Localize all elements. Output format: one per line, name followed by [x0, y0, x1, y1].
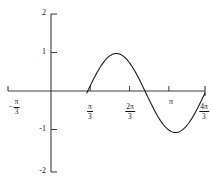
- y-tick-label-negative-2: -2: [31, 167, 46, 175]
- fraction-2pi-over-3: 2π 3: [125, 103, 135, 121]
- y-tick-label-1: 1: [34, 48, 46, 56]
- fraction-pi-over-3: π 3: [87, 103, 93, 121]
- pi-symbol: π: [169, 98, 173, 106]
- x-tick-label-4pi-over-3: 4π 3: [199, 95, 209, 121]
- sine-curve: [87, 54, 205, 133]
- x-axis-line: [8, 86, 205, 96]
- sine-wave-chart-figure: 2 1 -1 -2 − π 3 π 3 2π 3: [0, 0, 211, 185]
- y-tick-label-2: 2: [34, 9, 46, 17]
- y-tick-label-negative-1: -1: [31, 125, 46, 133]
- fraction-4pi-over-3: 4π 3: [199, 103, 209, 121]
- x-tick-label-pi-over-3: π 3: [87, 95, 93, 121]
- x-tick-label-negative-pi-over-3: − π 3: [9, 95, 20, 116]
- x-tick-label-2pi-over-3: 2π 3: [125, 95, 135, 121]
- fraction-pi-over-3: π 3: [14, 98, 20, 116]
- plot-area: [0, 0, 211, 185]
- y-axis-line: [51, 14, 57, 172]
